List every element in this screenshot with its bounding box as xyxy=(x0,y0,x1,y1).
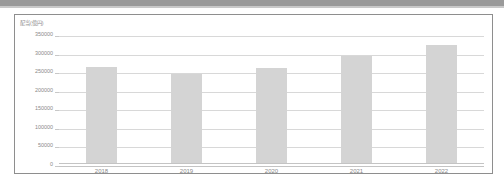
chart-card: 配当(億円) 350000 300000 250000 200000 15000… xyxy=(14,14,493,174)
y-axis-label-300000: 300000 xyxy=(17,51,53,56)
bar-2018[interactable] xyxy=(86,67,117,164)
x-axis-label-2020: 2020 xyxy=(242,168,302,174)
bar-2022[interactable] xyxy=(426,45,457,164)
bars-layer: 2018 2019 2020 2021 2022 xyxy=(59,15,484,173)
x-axis-label-2018: 2018 xyxy=(72,168,132,174)
y-axis-label-250000: 250000 xyxy=(17,69,53,74)
bar-2020[interactable] xyxy=(256,68,287,164)
chart-plot-area: 配当(億円) 350000 300000 250000 200000 15000… xyxy=(15,15,492,173)
bar-2021[interactable] xyxy=(341,56,372,164)
x-axis-line xyxy=(59,163,484,164)
y-axis-label-50000: 50000 xyxy=(17,143,53,148)
y-axis-title: 配当(億円) xyxy=(20,19,43,26)
x-axis-label-2019: 2019 xyxy=(157,168,217,174)
top-strip-shadow xyxy=(0,6,504,8)
y-axis-label-200000: 200000 xyxy=(17,88,53,93)
x-axis-label-2022: 2022 xyxy=(412,168,472,174)
y-axis-label-150000: 150000 xyxy=(17,106,53,111)
y-axis-label-0: 0 xyxy=(17,162,53,167)
y-axis-label-350000: 350000 xyxy=(17,32,53,37)
x-axis-label-2021: 2021 xyxy=(327,168,387,174)
bar-2019[interactable] xyxy=(171,74,202,164)
y-axis-label-100000: 100000 xyxy=(17,125,53,130)
